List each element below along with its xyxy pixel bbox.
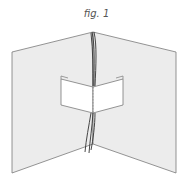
popup-card-diagram: [0, 0, 189, 189]
